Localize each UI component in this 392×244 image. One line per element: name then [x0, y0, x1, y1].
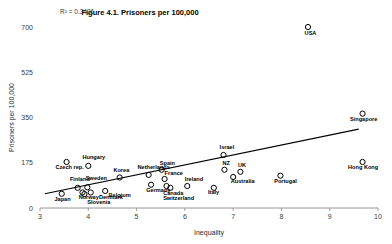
data-point-marker [238, 169, 243, 174]
x-axis-tick-label: 5 [135, 213, 139, 220]
data-point-marker [222, 167, 227, 172]
x-axis-tick-label: 7 [231, 213, 235, 220]
data-point-label: Sweden [86, 175, 108, 181]
data-point-marker [185, 183, 190, 188]
x-axis-tick-label: 9 [328, 213, 332, 220]
data-point-label: Switzerland [163, 195, 195, 201]
x-axis-tick-label: 6 [183, 213, 187, 220]
data-point-marker [162, 176, 167, 181]
data-point-label: Australia [231, 178, 256, 184]
y-axis-title: Prisoners per 100,000 [8, 83, 16, 152]
data-point-label: Japan [54, 196, 71, 202]
data-point-label: Belgium [109, 192, 131, 198]
data-point-label: Portugal [274, 178, 297, 184]
chart-title: Figure 4.1. Prisoners per 100,000 [81, 8, 198, 17]
x-axis-title: Inequality [194, 229, 224, 237]
data-point-label: Hong Kong [348, 164, 379, 170]
y-axis-tick-label: 175 [21, 159, 33, 166]
y-axis-tick-label: 700 [21, 24, 33, 31]
data-point-label: Hungary [82, 154, 106, 160]
x-axis-tick-label: 3 [38, 213, 42, 220]
y-axis-tick-label: 350 [21, 114, 33, 121]
y-axis-tick-label: 525 [21, 69, 33, 76]
data-point-label: Singapore [350, 116, 377, 122]
chart-container: Figure 4.1. Prisoners per 100,000R² = 0.… [0, 0, 392, 244]
trend-line [45, 129, 359, 194]
x-axis-tick-label: 10 [374, 213, 382, 220]
data-point-label: UK [238, 162, 246, 168]
x-axis-tick-label: 4 [86, 213, 90, 220]
data-point-label: France [165, 170, 183, 176]
y-axis-tick-label: 0 [29, 205, 33, 212]
data-point-label: NZ [223, 160, 231, 166]
data-point-marker [146, 172, 151, 177]
data-point-marker [305, 24, 310, 29]
prisoners-inequality-scatter-plot: Figure 4.1. Prisoners per 100,000R² = 0.… [0, 0, 392, 244]
data-point-label: Israel [220, 144, 235, 150]
data-point-label: USA [305, 30, 317, 36]
data-point-label: Korea [113, 167, 130, 173]
data-point-label: Ireland [185, 176, 204, 182]
data-point-marker [103, 188, 108, 193]
data-point-label: Italy [208, 189, 220, 195]
data-point-marker [86, 163, 91, 168]
x-axis-tick-label: 8 [279, 213, 283, 220]
data-point-label: Spain [160, 160, 176, 166]
r-squared-annotation: R² = 0.3436 [60, 8, 95, 15]
data-point-label: Czech rep. [55, 164, 84, 170]
